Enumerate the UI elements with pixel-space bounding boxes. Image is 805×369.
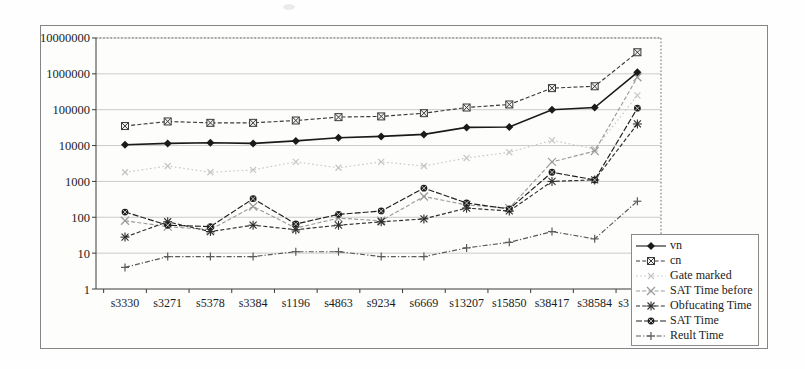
data-point-marker bbox=[292, 137, 300, 145]
legend-label: vn bbox=[670, 238, 682, 253]
chart-frame: 110100100010000100000100000010000000s333… bbox=[40, 25, 768, 349]
data-point-marker bbox=[506, 206, 513, 213]
data-point-marker bbox=[591, 83, 598, 90]
y-axis-label: 10000000 bbox=[41, 31, 90, 45]
legend-marker-sample-plus bbox=[635, 330, 667, 342]
x-axis-label: s4863 bbox=[324, 296, 353, 310]
data-point-marker bbox=[207, 119, 214, 126]
legend-item: Gate marked bbox=[632, 268, 758, 283]
data-point-marker bbox=[463, 123, 471, 131]
x-axis-label: s3330 bbox=[111, 296, 140, 310]
data-point-marker bbox=[634, 92, 640, 98]
data-point-marker bbox=[378, 113, 385, 120]
data-point-marker bbox=[249, 253, 257, 261]
legend-label: SAT Time bbox=[670, 313, 719, 328]
legend-item: Reult Time bbox=[632, 328, 758, 343]
x-axis-label: s5378 bbox=[196, 296, 225, 310]
x-axis-label: s1196 bbox=[282, 296, 310, 310]
legend-label: cn bbox=[670, 253, 681, 268]
x-axis-label: s6669 bbox=[410, 296, 439, 310]
data-point-marker bbox=[634, 49, 641, 56]
data-point-marker bbox=[122, 123, 129, 130]
data-point-marker bbox=[647, 301, 656, 310]
screenshot-canvas: 110100100010000100000100000010000000s333… bbox=[0, 0, 805, 369]
legend-item: cn bbox=[632, 253, 758, 268]
data-point-marker bbox=[548, 228, 556, 236]
data-point-marker bbox=[648, 257, 655, 264]
data-point-marker bbox=[377, 132, 385, 140]
data-point-marker bbox=[335, 114, 342, 121]
data-point-marker bbox=[249, 202, 257, 210]
data-point-marker bbox=[292, 221, 299, 228]
legend-label: Gate marked bbox=[670, 268, 732, 283]
data-point-marker bbox=[206, 253, 214, 261]
y-axis-label: 10 bbox=[78, 247, 91, 261]
y-axis-label: 1 bbox=[84, 283, 90, 297]
legend-marker-sample-light-x bbox=[635, 270, 667, 282]
legend-marker-sample-x bbox=[635, 285, 667, 297]
data-point-marker bbox=[292, 248, 300, 256]
data-point-marker bbox=[121, 141, 129, 149]
data-point-marker bbox=[164, 222, 171, 229]
legend-item: SAT Time before bbox=[632, 283, 758, 298]
data-point-marker bbox=[335, 211, 342, 218]
data-point-marker bbox=[548, 158, 556, 166]
legend-label: Reult Time bbox=[670, 328, 724, 343]
x-axis-label: s3 bbox=[618, 296, 629, 310]
data-point-marker bbox=[648, 317, 655, 324]
y-axis-label: 10000 bbox=[59, 139, 90, 153]
data-point-marker bbox=[506, 101, 513, 108]
data-point-marker bbox=[164, 253, 172, 261]
chart-legend: vncnGate markedSAT Time beforeObfucating… bbox=[631, 234, 759, 346]
data-point-marker bbox=[420, 192, 428, 200]
data-point-marker bbox=[634, 105, 641, 112]
data-point-marker bbox=[591, 177, 598, 184]
data-point-marker bbox=[463, 200, 470, 207]
legend-item: SAT Time bbox=[632, 313, 758, 328]
data-point-marker bbox=[420, 253, 428, 261]
data-point-marker bbox=[548, 177, 557, 186]
data-point-marker bbox=[647, 242, 655, 250]
series-line-sat-time-before bbox=[125, 77, 637, 229]
data-point-marker bbox=[121, 233, 130, 242]
data-point-marker bbox=[336, 165, 342, 171]
data-point-marker bbox=[207, 223, 214, 230]
data-point-marker bbox=[549, 85, 556, 92]
data-point-marker bbox=[334, 221, 343, 230]
x-axis-label: s3384 bbox=[239, 296, 268, 310]
data-point-marker bbox=[463, 104, 470, 111]
data-point-marker bbox=[335, 134, 343, 142]
x-axis-label: s13207 bbox=[449, 296, 484, 310]
data-point-marker bbox=[378, 208, 385, 215]
legend-marker-sample-asterisk bbox=[635, 300, 667, 312]
y-axis-label: 1000 bbox=[65, 175, 90, 189]
data-point-marker bbox=[121, 263, 129, 271]
data-point-marker bbox=[464, 155, 470, 161]
data-point-marker bbox=[335, 248, 343, 256]
data-point-marker bbox=[505, 238, 513, 246]
data-point-marker bbox=[506, 149, 512, 155]
data-point-marker bbox=[548, 106, 556, 114]
data-point-marker bbox=[633, 119, 642, 128]
data-point-marker bbox=[463, 244, 471, 252]
legend-item: vn bbox=[632, 238, 758, 253]
data-point-marker bbox=[164, 139, 172, 147]
legend-marker-sample-filled-diamond bbox=[635, 240, 667, 252]
data-point-marker bbox=[549, 169, 556, 176]
data-point-marker bbox=[419, 214, 428, 223]
legend-marker-sample-circle-x bbox=[635, 315, 667, 327]
scan-artifact bbox=[283, 4, 295, 10]
x-axis-label: s9234 bbox=[367, 296, 396, 310]
data-point-marker bbox=[122, 169, 128, 175]
y-axis-label: 100000 bbox=[53, 103, 91, 117]
x-axis-label: s38584 bbox=[577, 296, 612, 310]
x-axis-label: s15850 bbox=[492, 296, 527, 310]
y-axis-label: 100 bbox=[71, 211, 90, 225]
data-point-marker bbox=[647, 287, 655, 295]
data-point-marker bbox=[165, 163, 171, 169]
data-point-marker bbox=[250, 195, 257, 202]
data-point-marker bbox=[420, 110, 427, 117]
data-point-marker bbox=[122, 209, 129, 216]
y-axis-label: 1000000 bbox=[46, 67, 90, 81]
data-point-marker bbox=[293, 159, 299, 165]
